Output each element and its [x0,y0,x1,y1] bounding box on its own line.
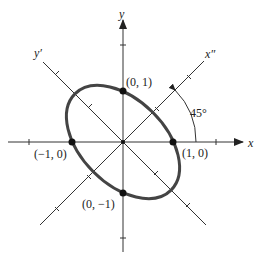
y-rotated-axis-label: y′ [33,46,42,60]
y-axis-label: y [118,7,125,21]
x-axis-label: x [247,136,254,150]
origin-dot [121,140,125,144]
rotated-ellipse-diagram: y x y′ x″ (0, 1) (−1, 0) (1, 0) (0, −1) … [0,0,261,259]
point-label-0-1: (0, 1) [126,75,152,89]
x-rotated-axis-label: x″ [204,47,216,61]
y-rotated-axis [43,62,206,225]
angle-label: 45° [190,106,207,120]
point-1-0 [170,139,177,146]
y-axis [120,20,126,252]
point-label-1-0: (1, 0) [182,146,208,160]
point-label-neg1-0: (−1, 0) [34,147,67,161]
point-label-0-neg1: (0, −1) [82,197,115,211]
point-0-neg1 [120,190,127,197]
point-neg1-0 [69,139,76,146]
